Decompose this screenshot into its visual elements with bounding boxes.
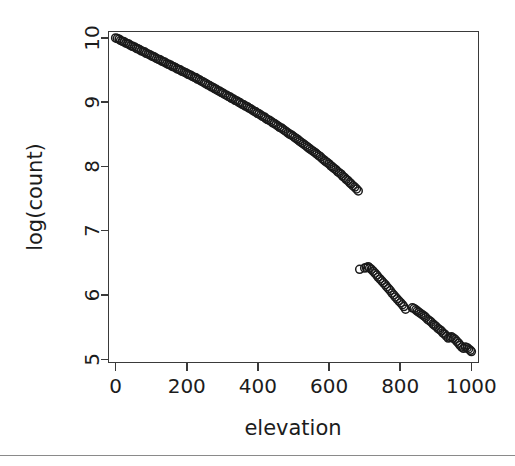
scatter-points xyxy=(112,34,476,356)
x-axis-tick-labels: 02004006008001000 xyxy=(109,374,497,398)
y-axis-tick-labels: 5678910 xyxy=(81,25,105,365)
y-tick-label: 8 xyxy=(81,160,105,173)
scatter-plot-figure: 5678910 02004006008001000 elevation log(… xyxy=(0,0,515,466)
y-tick-label: 9 xyxy=(81,96,105,109)
y-tick-label: 10 xyxy=(81,25,105,50)
x-tick-label: 1000 xyxy=(446,374,497,398)
y-axis-title: log(count) xyxy=(23,143,47,251)
x-tick-label: 800 xyxy=(381,374,419,398)
y-tick-label: 5 xyxy=(81,353,105,366)
plot-canvas: 5678910 02004006008001000 elevation log(… xyxy=(0,0,515,466)
x-tick-label: 0 xyxy=(109,374,122,398)
x-tick-label: 400 xyxy=(239,374,277,398)
y-tick-label: 7 xyxy=(81,224,105,237)
x-axis-ticks xyxy=(116,363,472,371)
x-tick-label: 200 xyxy=(168,374,206,398)
x-tick-label: 600 xyxy=(310,374,348,398)
y-tick-label: 6 xyxy=(81,289,105,302)
y-axis-ticks xyxy=(101,38,109,359)
x-axis-title: elevation xyxy=(244,416,341,440)
